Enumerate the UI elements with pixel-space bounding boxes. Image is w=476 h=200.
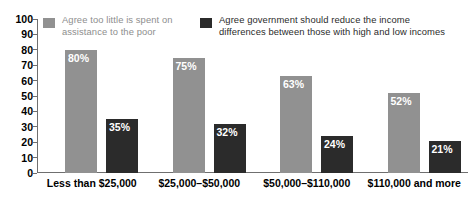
bar: 52% [388,93,420,173]
bar: 80% [65,50,97,173]
y-axis-tick-label-30: 30 [3,122,33,132]
y-axis-tick-label-70: 70 [3,60,33,70]
bar-value-label: 21% [432,144,453,155]
y-axis-tick-60 [33,80,37,81]
bar-value-label: 35% [109,122,130,133]
y-axis-tick-label-50: 50 [3,91,33,101]
y-axis-tick-label-80: 80 [3,45,33,55]
bar-value-label: 75% [176,61,197,72]
y-axis-tick-70 [33,65,37,66]
y-axis-tick-10 [33,157,37,158]
bar: 21% [429,141,461,173]
x-axis-category-label: $25,000–$50,000 [146,177,254,189]
y-axis-tick-label-10: 10 [3,153,33,163]
bar: 35% [106,119,138,173]
y-axis-tick-40 [33,111,37,112]
bar: 32% [214,124,246,173]
y-axis-tick-labels: 0102030405060708090100 [0,19,33,173]
x-axis-category-labels: Less than $25,000$25,000–$50,000$50,000–… [38,177,468,195]
y-axis-tick-0 [33,173,37,174]
bar: 63% [280,76,312,173]
x-axis-category-label: Less than $25,000 [38,177,146,189]
bar: 75% [173,58,205,174]
grouped-bar-chart: Agree too little is spent onassistance t… [0,0,476,200]
bar-group: 75%32% [146,19,254,173]
x-axis-category-label: $110,000 and more [361,177,469,189]
y-axis-tick-30 [33,126,37,127]
bar-groups: 80%35%75%32%63%24%52%21% [38,19,468,173]
bar: 24% [321,136,353,173]
y-axis-tick-90 [33,34,37,35]
bar-value-label: 63% [283,79,304,90]
y-axis-tick-50 [33,96,37,97]
y-axis-tick-100 [33,19,37,20]
bar-value-label: 24% [324,139,345,150]
y-axis-tick-80 [33,49,37,50]
y-axis-tick-label-20: 20 [3,137,33,147]
bar-group: 63%24% [253,19,361,173]
bar-value-label: 80% [68,53,89,64]
bar-value-label: 32% [217,127,238,138]
y-axis-tick-label-60: 60 [3,76,33,86]
y-axis-tick-label-0: 0 [3,168,33,178]
y-axis-tick-label-100: 100 [3,14,33,24]
bar-value-label: 52% [391,96,412,107]
y-axis-tick-label-90: 90 [3,29,33,39]
y-axis-tick-label-40: 40 [3,106,33,116]
y-axis-tick-20 [33,142,37,143]
bar-group: 52%21% [361,19,469,173]
bar-group: 80%35% [38,19,146,173]
x-axis-category-label: $50,000–$110,000 [253,177,361,189]
